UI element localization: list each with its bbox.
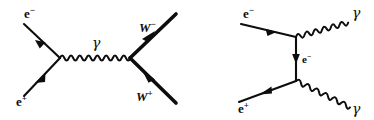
electron-in-arrow-icon bbox=[35, 40, 46, 49]
feynman-diagram-figure: e− e+ γ W− W+ e− e+ e− γ bbox=[0, 0, 374, 120]
label-photon-out-top: γ bbox=[352, 5, 361, 21]
label-positron-in-right: e+ bbox=[238, 100, 249, 116]
label-photon-propagator-left: γ bbox=[92, 35, 101, 51]
feynman-diagram-canvas: e− e+ γ W− W+ e− e+ e− γ bbox=[0, 0, 374, 120]
label-w-plus: W+ bbox=[136, 88, 153, 104]
label-electron-in-left: e− bbox=[24, 5, 35, 21]
electron-propagator-arrow-icon bbox=[292, 54, 300, 64]
photon-out-bottom-wave bbox=[296, 80, 350, 109]
label-positron-in-left: e+ bbox=[16, 93, 27, 109]
photon-out-top-wave bbox=[296, 22, 348, 38]
diagram-ee-to-ww: e− e+ γ W− W+ bbox=[16, 5, 176, 109]
photon-propagator-wave bbox=[60, 55, 130, 60]
label-electron-propagator: e− bbox=[302, 52, 311, 65]
label-photon-out-bottom: γ bbox=[352, 101, 361, 117]
electron-in-leg bbox=[24, 24, 60, 58]
label-electron-in-right: e− bbox=[243, 5, 254, 21]
diagram-ee-to-gammagamma: e− e+ e− γ γ bbox=[238, 5, 361, 117]
positron-in-arrow-icon-right bbox=[260, 87, 273, 95]
